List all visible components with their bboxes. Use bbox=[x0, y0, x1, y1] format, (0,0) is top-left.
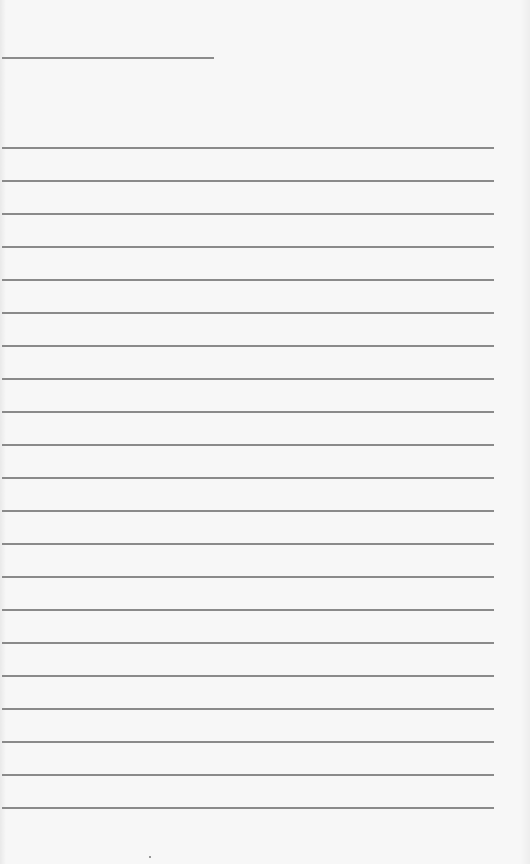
ruled-line bbox=[2, 675, 494, 677]
ruled-line bbox=[2, 543, 494, 545]
ruled-line bbox=[2, 147, 494, 149]
header-write-line bbox=[2, 57, 214, 59]
ruled-line bbox=[2, 774, 494, 776]
ruled-line bbox=[2, 609, 494, 611]
ruled-line bbox=[2, 345, 494, 347]
ruled-line bbox=[2, 180, 494, 182]
lined-paper-page bbox=[0, 0, 530, 864]
ruled-line bbox=[2, 708, 494, 710]
ruled-line bbox=[2, 378, 494, 380]
ruled-line bbox=[2, 213, 494, 215]
ruled-line bbox=[2, 576, 494, 578]
paper-speck bbox=[149, 856, 151, 858]
ruled-line bbox=[2, 642, 494, 644]
ruled-line bbox=[2, 444, 494, 446]
ruled-line bbox=[2, 807, 494, 809]
ruled-line bbox=[2, 411, 494, 413]
ruled-line bbox=[2, 510, 494, 512]
ruled-line bbox=[2, 246, 494, 248]
ruled-line bbox=[2, 741, 494, 743]
ruled-line bbox=[2, 312, 494, 314]
ruled-line bbox=[2, 279, 494, 281]
ruled-line bbox=[2, 477, 494, 479]
